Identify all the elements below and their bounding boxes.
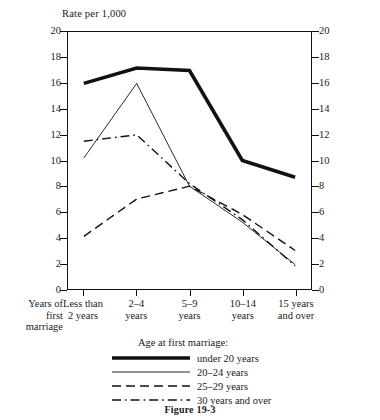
legend-entry-1: 20–24 years [112,365,342,379]
legend-key-swatch-2 [112,380,190,392]
x-axis-title-line: marriage [8,321,63,333]
legend-entry-2: 25–29 years [112,379,342,393]
y-tick-label-right-2: 2 [319,259,324,269]
legend-entries: under 20 years20–24 years25–29 years30 y… [112,351,342,407]
x-axis-title-line: Years of [8,298,63,310]
legend-key-swatch-0 [112,352,190,364]
y-tick-mark-right-14 [312,109,319,110]
y-tick-mark-left-20 [60,31,67,32]
y-tick-label-right-10: 10 [319,156,330,166]
y-tick-label-right-0: 0 [319,285,324,295]
series-line-3 [84,135,295,266]
y-tick-mark-left-4 [60,238,67,239]
x-tick-mark-3 [243,290,244,296]
y-tick-label-right-20: 20 [319,26,330,36]
series-line-0 [84,68,295,177]
y-tick-mark-left-8 [60,186,67,187]
plot-lines [68,32,311,289]
legend-entry-0: under 20 years [112,351,342,365]
figure-19-3: Rate per 1,000 02468101214161820 0246810… [0,0,380,420]
y-tick-mark-right-10 [312,161,319,162]
y-tick-mark-left-0 [60,290,67,291]
y-tick-mark-right-0 [312,290,319,291]
y-tick-mark-left-6 [60,212,67,213]
y-tick-mark-right-12 [312,135,319,136]
y-tick-mark-left-16 [60,83,67,84]
legend-label-0: under 20 years [197,353,259,364]
x-tick-mark-2 [190,290,191,296]
y-tick-mark-right-6 [312,212,319,213]
x-tick-mark-4 [296,290,297,296]
y-tick-label-right-6: 6 [319,207,324,217]
y-tick-mark-right-18 [312,57,319,58]
x-category-label-line: 15 years [256,298,336,310]
legend: Age at first marriage: under 20 years20–… [112,337,342,407]
x-category-label-4: 15 yearsand over [256,298,336,321]
figure-caption: Figure 19-3 [0,404,380,415]
y-tick-mark-right-16 [312,83,319,84]
legend-label-1: 20–24 years [197,367,248,378]
y-tick-label-right-8: 8 [319,181,324,191]
y-tick-mark-right-20 [312,31,319,32]
y-tick-mark-left-14 [60,109,67,110]
y-tick-mark-left-2 [60,264,67,265]
x-axis-title-line: first [8,310,63,322]
y-tick-label-right-12: 12 [319,130,330,140]
x-axis-title: Years offirstmarriage [8,298,63,333]
y-tick-label-right-4: 4 [319,233,324,243]
y-tick-mark-right-8 [312,186,319,187]
x-tick-mark-0 [83,290,84,296]
y-tick-mark-right-4 [312,238,319,239]
plot-area [67,31,312,290]
series-line-2 [84,186,295,250]
y-axis-title: Rate per 1,000 [62,8,126,19]
legend-title: Age at first marriage: [138,337,342,348]
x-tick-mark-1 [136,290,137,296]
y-tick-mark-left-12 [60,135,67,136]
y-tick-mark-left-18 [60,57,67,58]
legend-label-2: 25–29 years [197,381,248,392]
y-tick-label-right-14: 14 [319,104,330,114]
legend-key-swatch-1 [112,366,190,378]
x-category-label-line: and over [256,310,336,322]
y-tick-mark-left-10 [60,161,67,162]
y-tick-mark-right-2 [312,264,319,265]
y-tick-label-right-16: 16 [319,78,330,88]
y-tick-label-right-18: 18 [319,52,330,62]
